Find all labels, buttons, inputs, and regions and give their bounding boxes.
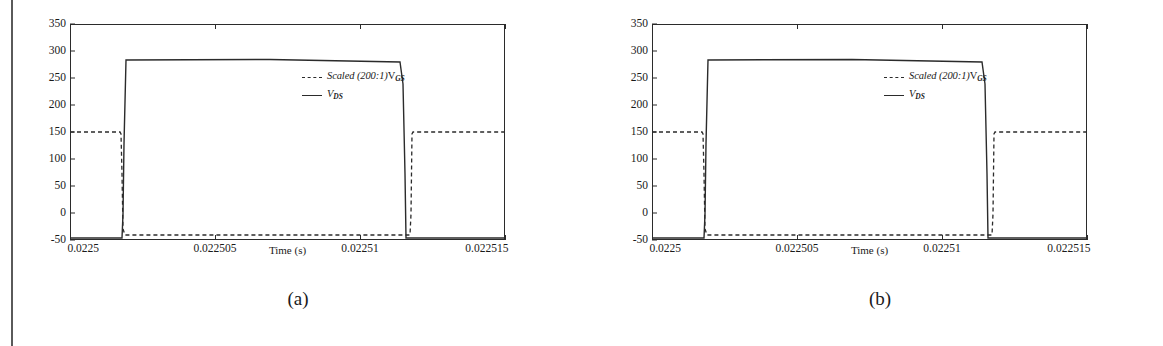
ytick-label: 150 bbox=[631, 126, 648, 138]
legend-label-vds: VDS bbox=[909, 89, 925, 101]
ytick-label: 100 bbox=[49, 153, 66, 165]
xtick-mark bbox=[1087, 235, 1088, 240]
ytick-label: 150 bbox=[49, 126, 66, 138]
figure-panel-a: -50 0 50 100 150 200 250 300 350 0.0225 … bbox=[18, 0, 578, 346]
xtick-label: 0.02251 bbox=[341, 243, 378, 255]
ytick-label: 300 bbox=[49, 45, 66, 57]
panel-caption-a: (a) bbox=[18, 288, 578, 310]
xtick-label: 0.0225 bbox=[67, 243, 99, 255]
legend-dashed-line-icon bbox=[884, 72, 906, 82]
legend-solid-line-icon bbox=[884, 90, 906, 100]
waveform-plot-a bbox=[70, 24, 505, 240]
legend-item-vgs: Scaled (200:1)VGS bbox=[302, 68, 405, 86]
waveform-plot-b bbox=[652, 24, 1087, 240]
xtick-mark bbox=[505, 235, 506, 240]
series-vds-a bbox=[70, 60, 505, 239]
ytick-label: 350 bbox=[631, 18, 648, 30]
ytick-label: -50 bbox=[633, 234, 648, 246]
figure-panel-b: -50 0 50 100 150 200 250 300 350 0.0225 … bbox=[600, 0, 1160, 346]
xtick-label: 0.022515 bbox=[465, 243, 508, 255]
panel-caption-b: (b) bbox=[600, 288, 1160, 310]
legend-label-vgs: Scaled (200:1)VGS bbox=[327, 71, 405, 83]
ytick-label: 200 bbox=[631, 99, 648, 111]
xtick-label: 0.02251 bbox=[923, 243, 960, 255]
xtick-mark bbox=[1087, 24, 1088, 29]
xtick-label: 0.0225 bbox=[649, 243, 681, 255]
legend-label-vds: VDS bbox=[327, 89, 343, 101]
series-vgs-a bbox=[70, 132, 505, 235]
ytick-label: 350 bbox=[49, 18, 66, 30]
plot-area-b: -50 0 50 100 150 200 250 300 350 0.0225 … bbox=[652, 24, 1087, 240]
legend-solid-line-icon bbox=[302, 90, 324, 100]
xtick-mark bbox=[505, 24, 506, 29]
ytick-label: 0 bbox=[60, 207, 66, 219]
legend-a: Scaled (200:1)VGS VDS bbox=[302, 68, 405, 104]
ytick-label: 300 bbox=[631, 45, 648, 57]
x-axis-title: Time (s) bbox=[269, 244, 306, 256]
x-axis-title: Time (s) bbox=[851, 244, 888, 256]
legend-b: Scaled (200:1)VGS VDS bbox=[884, 68, 987, 104]
xtick-label: 0.022505 bbox=[193, 243, 236, 255]
legend-label-vgs: Scaled (200:1)VGS bbox=[909, 71, 987, 83]
series-vds-b bbox=[652, 60, 1087, 239]
page-edge-rule bbox=[11, 0, 13, 346]
xtick-label: 0.022505 bbox=[775, 243, 818, 255]
ytick-label: 0 bbox=[642, 207, 648, 219]
legend-item-vgs: Scaled (200:1)VGS bbox=[884, 68, 987, 86]
legend-dashed-line-icon bbox=[302, 72, 324, 82]
ytick-label: 50 bbox=[55, 180, 67, 192]
ytick-label: -50 bbox=[51, 234, 66, 246]
legend-item-vds: VDS bbox=[884, 86, 987, 104]
xtick-label: 0.022515 bbox=[1047, 243, 1090, 255]
ytick-label: 250 bbox=[49, 72, 66, 84]
ytick-label: 250 bbox=[631, 72, 648, 84]
ytick-label: 50 bbox=[637, 180, 649, 192]
series-vgs-b bbox=[652, 132, 1087, 235]
ytick-label: 200 bbox=[49, 99, 66, 111]
legend-item-vds: VDS bbox=[302, 86, 405, 104]
plot-area-a: -50 0 50 100 150 200 250 300 350 0.0225 … bbox=[70, 24, 505, 240]
ytick-label: 100 bbox=[631, 153, 648, 165]
